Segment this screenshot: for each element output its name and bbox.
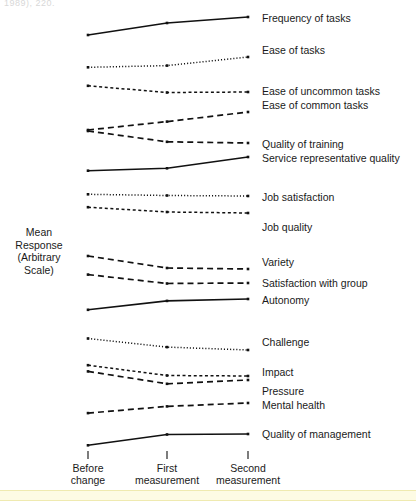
data-point-marker <box>166 22 169 25</box>
series-label: Satisfaction with group <box>262 278 368 289</box>
data-point-marker <box>87 309 90 312</box>
data-point-marker <box>166 211 169 214</box>
data-point-marker <box>166 383 169 386</box>
data-point-marker <box>87 273 90 276</box>
series-label: Challenge <box>262 337 309 348</box>
data-point-marker <box>87 255 90 258</box>
data-point-marker <box>87 130 90 133</box>
series-label: Frequency of tasks <box>262 13 351 24</box>
x-axis-tick-label-line1: Second <box>193 462 303 474</box>
series-label: Ease of uncommon tasks <box>262 86 380 97</box>
data-point-marker <box>166 346 169 349</box>
data-point-marker <box>166 282 169 285</box>
data-point-marker <box>166 141 169 144</box>
data-point-marker <box>166 64 169 67</box>
data-point-marker <box>247 56 250 59</box>
data-point-marker <box>247 433 250 436</box>
data-point-marker <box>247 282 250 285</box>
series-label: Impact <box>262 367 294 378</box>
series-label: Ease of tasks <box>262 45 325 56</box>
data-point-marker <box>247 142 250 145</box>
data-point-marker <box>87 66 90 69</box>
data-point-marker <box>247 298 250 301</box>
data-point-marker <box>247 402 250 405</box>
series-label: Autonomy <box>262 295 309 306</box>
chart-figure: 1989), 220. MeanResponse(ArbitraryScale)… <box>0 0 416 501</box>
y-axis-label-line: Scale) <box>0 264 78 277</box>
data-point-marker <box>166 194 169 197</box>
series-label: Job satisfaction <box>262 192 334 203</box>
series-label: Mental health <box>262 400 325 411</box>
y-axis-label: MeanResponse(ArbitraryScale) <box>0 226 78 276</box>
data-point-marker <box>87 370 90 373</box>
series-line <box>88 371 248 383</box>
x-axis-tick-label: Secondmeasurement <box>193 462 303 486</box>
y-axis-label-line: (Arbitrary <box>0 251 78 264</box>
data-point-marker <box>166 120 169 123</box>
data-point-marker <box>247 195 250 198</box>
data-point-marker <box>247 16 250 19</box>
data-point-marker <box>247 212 250 215</box>
y-axis-label-line: Response <box>0 239 78 252</box>
series-label: Pressure <box>262 386 304 397</box>
series-layer <box>87 16 250 447</box>
data-point-marker <box>87 412 90 415</box>
x-axis-tick-label-line2: measurement <box>193 474 303 486</box>
data-point-marker <box>166 91 169 94</box>
page-bottom-band <box>0 490 416 501</box>
data-point-marker <box>166 433 169 436</box>
series-line <box>88 275 248 284</box>
data-point-marker <box>247 375 250 378</box>
series-line <box>88 17 248 35</box>
series-label: Quality of management <box>262 429 371 440</box>
data-point-marker <box>87 34 90 37</box>
series-label: Service representative quality <box>262 153 400 164</box>
data-point-marker <box>166 267 169 270</box>
data-point-marker <box>247 156 250 159</box>
data-point-marker <box>87 444 90 447</box>
data-point-marker <box>87 169 90 172</box>
series-label: Job quality <box>262 222 312 233</box>
data-point-marker <box>87 206 90 209</box>
data-point-marker <box>87 85 90 88</box>
data-point-marker <box>166 405 169 408</box>
data-point-marker <box>166 374 169 377</box>
series-label: Quality of training <box>262 139 344 150</box>
series-label: Ease of common tasks <box>262 100 368 111</box>
data-point-marker <box>247 349 250 352</box>
data-point-marker <box>166 167 169 170</box>
data-point-marker <box>247 111 250 114</box>
x-axis-tick-layer <box>88 451 248 459</box>
data-point-marker <box>166 300 169 303</box>
y-axis-label-line: Mean <box>0 226 78 239</box>
data-point-marker <box>87 193 90 196</box>
data-point-marker <box>247 379 250 382</box>
series-label: Variety <box>262 257 294 268</box>
data-point-marker <box>247 268 250 271</box>
data-point-marker <box>87 364 90 367</box>
series-line <box>88 403 248 413</box>
data-point-marker <box>87 337 90 340</box>
data-point-marker <box>247 91 250 94</box>
